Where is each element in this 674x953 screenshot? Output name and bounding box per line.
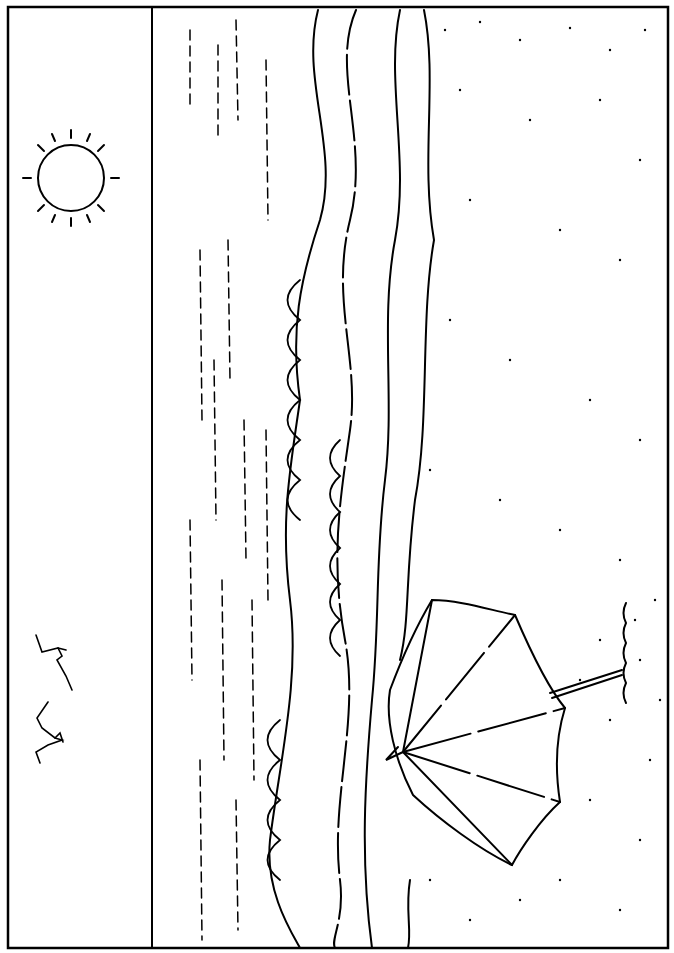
seagull-icon	[36, 702, 63, 763]
sand-texture	[429, 21, 661, 921]
sea-ripples	[190, 20, 268, 940]
sun-icon	[23, 130, 119, 226]
foam	[268, 280, 341, 880]
beach-umbrella-icon	[386, 600, 626, 865]
waves	[269, 10, 434, 948]
seagull-icon	[36, 635, 72, 690]
beach-drawing	[0, 0, 674, 953]
